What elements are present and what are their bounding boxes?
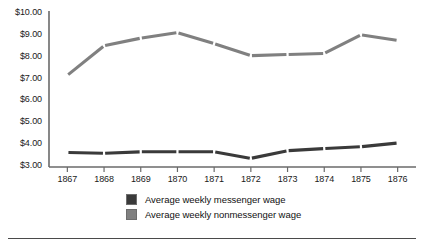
y-tick-label: $8.00 bbox=[2, 51, 42, 61]
series-segment bbox=[289, 149, 324, 151]
x-tick-label: 1869 bbox=[121, 174, 161, 184]
x-tick-label: 1871 bbox=[194, 174, 234, 184]
chart-canvas bbox=[0, 0, 424, 190]
legend-label-nonmessenger: Average weekly nonmessenger wage bbox=[145, 209, 301, 220]
x-tick-label: 1867 bbox=[47, 174, 87, 184]
y-tick-label: $10.00 bbox=[2, 7, 42, 17]
y-tick-label: $4.00 bbox=[2, 138, 42, 148]
series-segment bbox=[179, 33, 214, 43]
legend-swatch-messenger bbox=[126, 194, 137, 205]
series-segment bbox=[252, 151, 287, 158]
legend-item-messenger: Average weekly messenger wage bbox=[0, 192, 424, 207]
x-tick-label: 1872 bbox=[231, 174, 271, 184]
series-segment bbox=[289, 53, 324, 54]
chart-legend: Average weekly messenger wage Average we… bbox=[0, 192, 424, 222]
y-tick-label: $9.00 bbox=[2, 29, 42, 39]
series-segment bbox=[325, 147, 360, 149]
series-segment bbox=[68, 46, 103, 74]
legend-swatch-nonmessenger bbox=[126, 209, 137, 220]
series-layer bbox=[68, 33, 396, 158]
x-tick-label: 1876 bbox=[378, 174, 418, 184]
y-tick-label: $7.00 bbox=[2, 73, 42, 83]
y-tick-label: $3.00 bbox=[2, 160, 42, 170]
series-segment bbox=[252, 55, 287, 56]
series-nonmessenger bbox=[68, 33, 396, 75]
series-segment bbox=[68, 152, 103, 153]
series-segment bbox=[325, 35, 360, 53]
x-tick-label: 1870 bbox=[157, 174, 197, 184]
series-segment bbox=[142, 33, 177, 38]
y-tick-label: $5.00 bbox=[2, 116, 42, 126]
legend-item-nonmessenger: Average weekly nonmessenger wage bbox=[0, 207, 424, 222]
chart-figure: $3.00$4.00$5.00$6.00$7.00$8.00$9.00$10.0… bbox=[0, 0, 424, 250]
x-tick-label: 1873 bbox=[268, 174, 308, 184]
x-tick-label: 1875 bbox=[341, 174, 381, 184]
series-segment bbox=[105, 38, 140, 45]
series-segment bbox=[362, 35, 397, 40]
plot-area: $3.00$4.00$5.00$6.00$7.00$8.00$9.00$10.0… bbox=[0, 0, 424, 190]
series-segment bbox=[362, 143, 397, 146]
series-messenger bbox=[68, 143, 396, 158]
legend-label-messenger: Average weekly messenger wage bbox=[145, 194, 285, 205]
x-tick-label: 1868 bbox=[84, 174, 124, 184]
series-segment bbox=[215, 44, 250, 55]
x-tick-label: 1874 bbox=[304, 174, 344, 184]
series-segment bbox=[215, 152, 250, 158]
series-segment bbox=[105, 152, 140, 153]
footer-divider bbox=[8, 238, 416, 239]
y-tick-label: $6.00 bbox=[2, 94, 42, 104]
axis-group bbox=[49, 11, 416, 167]
